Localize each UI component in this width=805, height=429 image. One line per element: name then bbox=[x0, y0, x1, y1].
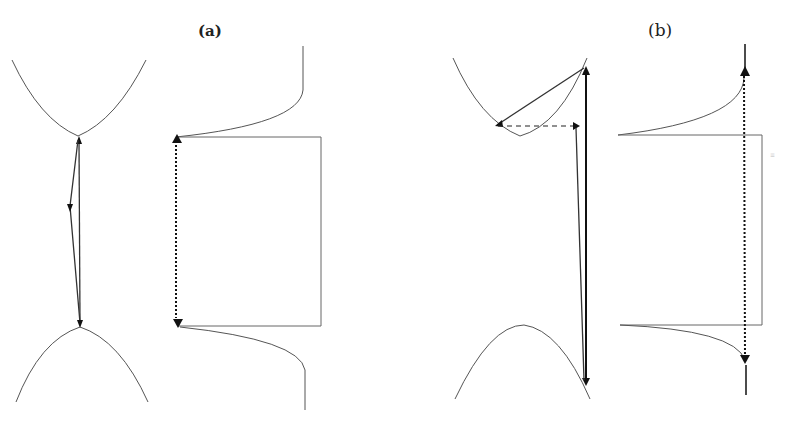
panel-b-dos-upper bbox=[618, 78, 744, 135]
panel-b bbox=[453, 44, 762, 399]
panel-b-dos-lower bbox=[620, 325, 745, 360]
panel-b-upper-band bbox=[453, 58, 587, 136]
panel-b-relaxation bbox=[497, 68, 584, 125]
panel-b-lower-band bbox=[455, 325, 590, 399]
arrow-down-icon bbox=[173, 319, 183, 328]
faint-scan-mark: ≡ bbox=[770, 152, 775, 158]
panel-a-dos-upper bbox=[176, 46, 303, 137]
panel-b-gap-box bbox=[618, 135, 762, 325]
panel-a bbox=[12, 46, 321, 410]
arrow-up-icon bbox=[76, 136, 82, 144]
panel-a-gap-box bbox=[176, 137, 321, 326]
arrow-down-icon bbox=[67, 204, 73, 212]
arrow-down-icon bbox=[740, 355, 750, 364]
panel-a-vertical-transition bbox=[79, 140, 80, 323]
diagram-canvas bbox=[0, 0, 805, 429]
panel-a-upper-band bbox=[12, 60, 146, 136]
arrow-down-icon bbox=[77, 320, 83, 328]
panel-b-indirect-transition bbox=[576, 128, 584, 380]
arrow-up-icon bbox=[740, 66, 750, 76]
panel-b-dotted-transition bbox=[744, 76, 745, 358]
arrow-up-icon bbox=[172, 134, 182, 143]
panel-a-dos-lower bbox=[180, 327, 305, 410]
panel-a-lower-band bbox=[16, 327, 148, 402]
